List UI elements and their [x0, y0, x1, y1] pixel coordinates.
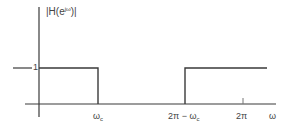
x-tick-label-2pi-minus-wc: 2π − ωc — [168, 111, 200, 124]
twopi-minus-main: 2π − ω — [168, 111, 197, 121]
passband-periodic — [185, 68, 267, 104]
twopi-minus-subscript: c — [197, 116, 200, 122]
frequency-response-plot — [0, 0, 296, 127]
x-axis-label-omega: ω — [269, 111, 276, 121]
x-tick-label-wc: ωc — [93, 111, 103, 124]
passband-lowpass — [39, 68, 98, 104]
wc-main: ω — [93, 111, 100, 121]
wc-subscript: c — [100, 116, 103, 122]
title-prefix: |H(e — [46, 6, 65, 17]
x-tick-label-2pi: 2π — [236, 111, 247, 121]
y-tick-label-1: 1 — [33, 62, 38, 72]
title-suffix: )| — [71, 6, 77, 17]
y-axis-title: |H(ejω)| — [46, 4, 77, 17]
